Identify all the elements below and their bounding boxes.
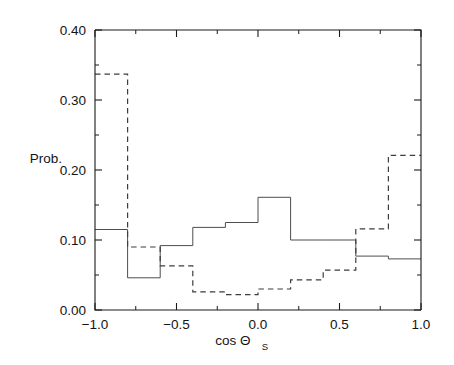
- data-series-layer: [95, 74, 421, 295]
- y-tick-label: 0.10: [60, 233, 86, 248]
- y-tick-label: 0.40: [60, 23, 86, 38]
- x-tick-label: 0.0: [249, 317, 268, 332]
- y-tick-label: 0.00: [60, 303, 86, 318]
- x-tick-label: 1.0: [412, 317, 431, 332]
- figure-container: −1.0−0.50.00.51.00.000.100.200.300.40 Pr…: [0, 0, 454, 365]
- axes-frame: [95, 30, 421, 310]
- series-dashed: [95, 74, 421, 295]
- x-tick-label: 0.5: [330, 317, 349, 332]
- x-tick-label: −1.0: [82, 317, 109, 332]
- axis-tick-labels: −1.0−0.50.00.51.00.000.100.200.300.40: [60, 23, 431, 332]
- axis-ticks: [95, 30, 421, 310]
- x-axis-label-subscript: S: [262, 341, 268, 352]
- x-axis-label-main: cos Θ: [215, 333, 250, 348]
- series-solid: [95, 197, 421, 277]
- y-tick-label: 0.20: [60, 163, 86, 178]
- y-tick-label: 0.30: [60, 93, 86, 108]
- x-axis-label: cos Θ S: [215, 333, 268, 352]
- x-tick-label: −0.5: [163, 317, 190, 332]
- probability-step-histogram: −1.0−0.50.00.51.00.000.100.200.300.40 Pr…: [0, 0, 454, 365]
- y-axis-label: Prob.: [30, 151, 62, 166]
